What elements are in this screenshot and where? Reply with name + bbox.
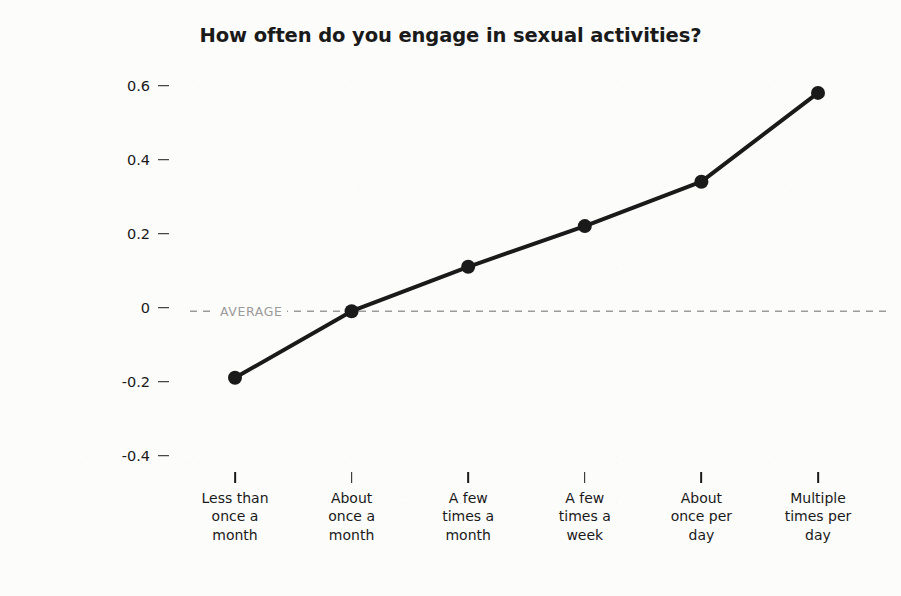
x-axis-tick-label-line: times per [759,507,877,525]
data-point [578,219,592,233]
x-axis-tick-label-line: A few [409,489,527,507]
x-axis-tick-mark [584,472,586,483]
x-axis-tick-label-line: once per [642,507,760,525]
x-axis-tick-label: Multipletimes perday [759,489,877,544]
x-axis-tick-label-line: month [176,526,294,544]
x-axis-tick-mark [351,472,353,483]
x-axis-tick-label-line: month [409,526,527,544]
data-point-group [228,86,825,385]
x-axis-tick-label-line: times a [526,507,644,525]
x-axis-tick-label: A fewtimes amonth [409,489,527,544]
data-line [235,93,818,378]
x-axis-tick-label-line: week [526,526,644,544]
x-axis-tick-label-line: Multiple [759,489,877,507]
data-point [461,260,475,274]
x-axis-tick-label: Aboutonce perday [642,489,760,544]
chart-figure: How often do you engage in sexual activi… [0,0,901,596]
x-axis-tick-label: Less thanonce amonth [176,489,294,544]
data-point [811,86,825,100]
x-axis-tick-label-line: A few [526,489,644,507]
x-axis-tick-label-line: day [642,526,760,544]
average-annotation-label: AVERAGE [216,304,287,319]
x-axis-tick-label-line: About [642,489,760,507]
data-point [694,175,708,189]
x-axis-tick-label: A fewtimes aweek [526,489,644,544]
x-axis-tick-label-line: day [759,526,877,544]
x-axis-tick-label-line: once a [293,507,411,525]
x-axis-tick-mark [467,472,469,483]
data-point [345,304,359,318]
x-axis-tick-label-line: About [293,489,411,507]
x-axis-tick-label-line: times a [409,507,527,525]
x-axis-tick-mark [234,472,236,483]
x-axis-tick-mark [817,472,819,483]
x-axis-tick-mark [701,472,703,483]
x-axis-tick-label-line: Less than [176,489,294,507]
x-axis-tick-label-line: month [293,526,411,544]
x-axis-tick-label: Aboutonce amonth [293,489,411,544]
x-axis-tick-label-line: once a [176,507,294,525]
data-point [228,371,242,385]
